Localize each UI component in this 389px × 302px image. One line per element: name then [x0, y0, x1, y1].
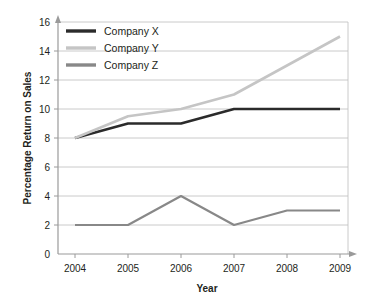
x-tick-labels: 2004 2005 2006 2007 2008 2009 [64, 263, 352, 274]
y-axis-arrow-icon [55, 15, 61, 23]
y-tick-label-12: 12 [39, 75, 51, 86]
x-tick-label-2006: 2006 [170, 263, 193, 274]
y-tick-label-0: 0 [44, 249, 50, 260]
y-tick-labels: 16 14 12 10 8 6 4 2 0 [39, 17, 51, 260]
legend: Company X Company Y Company Z [66, 25, 159, 71]
x-tick-label-2008: 2008 [276, 263, 299, 274]
x-tick-label-2009: 2009 [329, 263, 352, 274]
x-tick-label-2005: 2005 [117, 263, 140, 274]
y-tick-label-8: 8 [44, 133, 50, 144]
y-tick-label-4: 4 [44, 191, 50, 202]
chart-container: 16 14 12 10 8 6 4 2 0 2004 2005 2006 200… [0, 0, 389, 302]
x-tick-label-2004: 2004 [64, 263, 87, 274]
y-tick-label-6: 6 [44, 162, 50, 173]
legend-label-company-z: Company Z [104, 59, 159, 71]
legend-label-company-y: Company Y [104, 42, 159, 54]
y-axis-title: Percentage Return on Sales [22, 71, 33, 204]
y-tick-label-10: 10 [39, 104, 51, 115]
line-chart: 16 14 12 10 8 6 4 2 0 2004 2005 2006 200… [0, 0, 389, 302]
y-tick-label-16: 16 [39, 17, 51, 28]
x-axis-title: Year [196, 283, 217, 294]
x-tick-label-2007: 2007 [223, 263, 246, 274]
y-tick-label-2: 2 [44, 220, 50, 231]
x-axis-ticks [75, 254, 340, 258]
legend-label-company-x: Company X [104, 25, 159, 37]
y-tick-label-14: 14 [39, 46, 51, 57]
x-axis-arrow-icon [349, 251, 357, 257]
